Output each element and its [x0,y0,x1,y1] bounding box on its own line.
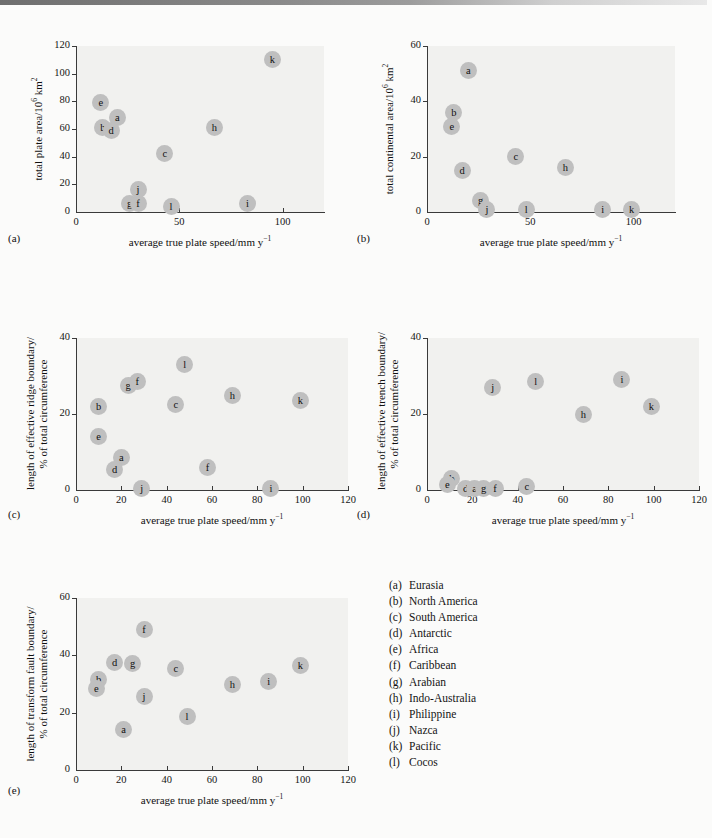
y-tick-a-60 [72,129,76,130]
data-point-e-e: e [88,680,105,697]
x-ticklabel-c-60: 60 [194,494,230,505]
legend-item-north-america: (b)North America [389,593,478,609]
x-tick-c-100 [303,486,304,490]
x-axis-title-a: average true plate speed/mm y−1 [56,234,344,248]
legend-key: (h) [389,690,409,706]
data-point-b-j: j [478,201,495,218]
legend-item-pacific: (k)Pacific [389,738,478,754]
legend-label: Indo-Australia [409,692,476,704]
panel-letter-b: (b) [357,232,370,244]
x-tick-e-80 [257,766,258,770]
y-tick-a-120 [72,46,76,47]
data-point-a-f: f [130,195,147,212]
data-point-b-l: l [518,201,535,218]
x-ticklabel-a-50: 50 [161,216,197,227]
x-tick-e-120 [348,766,349,770]
y-axis-title-a: total plate area/106 km2 [30,46,44,212]
data-point-c-i: i [262,480,279,497]
x-axis-title-c: average true plate speed/mm y−1 [56,512,368,526]
x-ticklabel-c-20: 20 [103,494,139,505]
x-ticklabel-e-0: 0 [58,774,94,785]
x-tick-a-100 [283,208,284,212]
data-point-c-k: k [292,392,309,409]
legend-item-africa: (e)Africa [389,641,478,657]
legend-label: Eurasia [409,579,443,591]
panel-letter-d: (d) [357,508,370,520]
x-ticklabel-c-40: 40 [149,494,185,505]
data-point-b-i: i [594,201,611,218]
x-ticklabel-a-100: 100 [265,216,301,227]
legend-label: South America [409,611,478,623]
x-tick-d-100 [654,486,655,490]
legend-label: Nazca [409,724,438,736]
x-ticklabel-d-100: 100 [636,494,672,505]
x-ticklabel-d-80: 80 [590,494,626,505]
y-axis-title-b: total continental area/106 km2 [381,46,395,212]
legend-item-indo-australia: (h)Indo-Australia [389,690,478,706]
legend-item-caribbean: (f)Caribbean [389,657,478,673]
y-axis-line-e [76,598,77,771]
x-tick-e-40 [167,766,168,770]
x-tick-e-100 [303,766,304,770]
data-point-e-i: i [260,673,277,690]
legend-label: Caribbean [409,659,456,671]
x-ticklabel-b-50: 50 [512,216,548,227]
data-point-e-h: h [224,676,241,693]
legend-label: Arabian [409,676,446,688]
data-point-a-d: d [103,122,120,139]
legend-key: (c) [389,609,409,625]
legend-item-philippine: (i)Philippine [389,706,478,722]
x-ticklabel-c-120: 120 [330,494,366,505]
legend-label: Antarctic [409,627,452,639]
x-ticklabel-b-0: 0 [409,216,445,227]
data-point-c-f: f [129,373,146,390]
data-point-c-f2: f [199,459,216,476]
scan-artifact-bar [0,0,707,5]
legend-key: (e) [389,641,409,657]
data-point-e-k: k [292,657,309,674]
x-tick-c-40 [167,486,168,490]
data-point-e-l: l [179,708,196,725]
x-tick-d-80 [608,486,609,490]
legend-label: Africa [409,643,438,655]
y-axis-title-d: length of effective trench boundary/% of… [375,338,400,490]
x-tick-c-120 [348,486,349,490]
x-axis-line-e [76,770,349,771]
y-axis-title-e: length of transform fault boundary/% of … [24,598,49,770]
legend-key: (g) [389,674,409,690]
legend-key: (f) [389,657,409,673]
y-tick-b-40 [423,101,427,102]
data-point-d-c: c [518,478,535,495]
x-tick-d-120 [699,486,700,490]
y-axis-title-c: length of effective ridge boundary/% of … [24,338,49,490]
x-axis-title-b: average true plate speed/mm y−1 [407,234,695,248]
y-tick-c-40 [72,338,76,339]
legend-item-cocos: (l)Cocos [389,754,478,770]
x-ticklabel-d-60: 60 [545,494,581,505]
legend-label: Philippine [409,708,456,720]
x-ticklabel-d-40: 40 [500,494,536,505]
x-tick-c-80 [257,486,258,490]
plot-background-d [427,338,699,490]
y-tick-a-100 [72,74,76,75]
data-point-d-k: k [643,398,660,415]
data-point-a-l: l [163,198,180,215]
y-tick-a-20 [72,184,76,185]
legend-key: (k) [389,738,409,754]
data-point-b-e: e [443,118,460,135]
data-point-c-j: j [133,480,150,497]
data-point-e-f: f [136,621,153,638]
data-point-c-h: h [224,387,241,404]
y-axis-line-a [76,46,77,213]
legend-label: Cocos [409,756,438,768]
data-point-a-h: h [206,119,223,136]
legend-key: (j) [389,722,409,738]
panel-letter-a: (a) [8,232,20,244]
x-ticklabel-e-100: 100 [285,774,321,785]
data-point-c-b: b [90,398,107,415]
data-point-d-f: f [487,480,504,497]
x-tick-c-20 [121,486,122,490]
y-tick-b-60 [423,46,427,47]
data-point-d-h: h [575,406,592,423]
x-ticklabel-c-0: 0 [58,494,94,505]
